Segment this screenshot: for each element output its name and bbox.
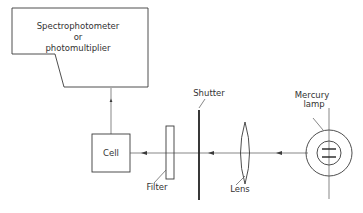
filter: Filter <box>146 126 174 192</box>
detector-box: Spectrophotometer or photomultiplier <box>12 8 148 87</box>
cell-label: Cell <box>103 148 119 158</box>
filter-label: Filter <box>146 182 168 192</box>
lens-label: Lens <box>230 184 250 194</box>
beam-arrow-icon <box>141 151 147 155</box>
detector-label-line3: photomultiplier <box>45 43 111 53</box>
cell: Cell <box>92 134 130 172</box>
detector-label-line1: Spectrophotometer <box>37 21 120 31</box>
photolysis-apparatus-diagram: Spectrophotometer or photomultiplier Cel… <box>0 0 363 213</box>
detector-label-line2: or <box>74 32 83 42</box>
shutter-label: Shutter <box>193 88 225 98</box>
lens: Lens <box>230 122 250 194</box>
lamp-label-line2: lamp <box>303 99 324 109</box>
mercury-lamp: Mercury lamp <box>295 90 352 199</box>
shutter: Shutter <box>193 88 225 200</box>
beam-arrow-icon <box>276 151 282 155</box>
beam-arrow-icon <box>208 151 214 155</box>
